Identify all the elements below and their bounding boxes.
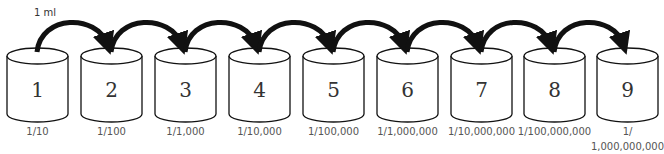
dilution-label: 1/100 [97, 126, 126, 137]
transfer-arrow-icon [333, 22, 403, 52]
transfer-volume-label: 1 ml [34, 7, 56, 18]
transfer-arrow-icon [407, 22, 477, 52]
tube-number: 6 [401, 78, 414, 102]
dilution-label: 1/100,000,000 [518, 126, 591, 137]
dilution-label-line2: 1,000,000,000 [591, 141, 664, 152]
tube-9: 91/1,000,000,000 [591, 48, 664, 152]
tube-4: 41/10,000 [229, 48, 290, 137]
tube-number: 3 [179, 78, 192, 102]
tube-2: 21/100 [81, 48, 142, 137]
tube-5: 51/100,000 [303, 48, 364, 137]
dilution-label-line1: 1/ [623, 126, 633, 137]
tube-number: 9 [621, 78, 634, 102]
transfer-arrow-icon [259, 22, 329, 52]
dilution-label: 1/100,000 [308, 126, 359, 137]
dilution-label: 1/1,000 [166, 126, 204, 137]
tube-number: 7 [475, 78, 488, 102]
tube-number: 4 [253, 78, 266, 102]
tube-number: 2 [105, 78, 118, 102]
tube-8: 81/100,000,000 [518, 48, 591, 137]
tube-3: 31/1,000 [155, 48, 216, 137]
transfer-arrow-icon [37, 22, 107, 52]
tube-6: 61/1,000,000 [377, 48, 438, 137]
dilution-label: 1/10,000,000 [448, 126, 515, 137]
transfer-arrow-icon [111, 22, 181, 52]
tube-top [597, 48, 658, 64]
transfer-arrow-icon [185, 22, 255, 52]
dilution-label: 1/10,000 [237, 126, 282, 137]
tube-1: 11/10 [7, 48, 68, 137]
tube-number: 8 [548, 78, 561, 102]
tube-7: 71/10,000,000 [448, 48, 515, 137]
dilution-label: 1/10 [26, 126, 48, 137]
tube-number: 1 [31, 78, 44, 102]
serial-dilution-diagram: 1 ml 11/1021/10031/1,00041/10,00051/100,… [0, 0, 664, 154]
transfer-arrow-icon [554, 22, 623, 52]
transfer-arrow-icon [481, 22, 550, 52]
dilution-label: 1/1,000,000 [377, 126, 438, 137]
tube-number: 5 [327, 78, 340, 102]
